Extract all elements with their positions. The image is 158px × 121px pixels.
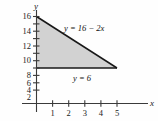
x-tick-label-2: 2 <box>63 109 75 118</box>
x-axis-label: x <box>150 99 154 108</box>
base-equation-label: y = 6 <box>73 74 91 83</box>
y-tick-label-16: 16 <box>12 12 31 21</box>
x-tick-label-5: 5 <box>111 109 123 118</box>
x-tick-label-4: 4 <box>95 109 107 118</box>
line-equation-label: y = 16 − 2x <box>64 24 104 33</box>
y-tick-label-14: 14 <box>12 27 31 36</box>
graph-figure: y x 16 14 12 10 8 6 4 2 1 2 3 4 5 y = 16… <box>0 0 158 121</box>
y-tick-label-12: 12 <box>12 42 31 51</box>
y-tick-label-2: 2 <box>12 93 31 102</box>
y-axis-label: y <box>34 2 38 11</box>
x-tick-label-3: 3 <box>79 109 91 118</box>
y-tick-label-10: 10 <box>12 56 31 65</box>
x-tick-label-1: 1 <box>47 109 59 118</box>
